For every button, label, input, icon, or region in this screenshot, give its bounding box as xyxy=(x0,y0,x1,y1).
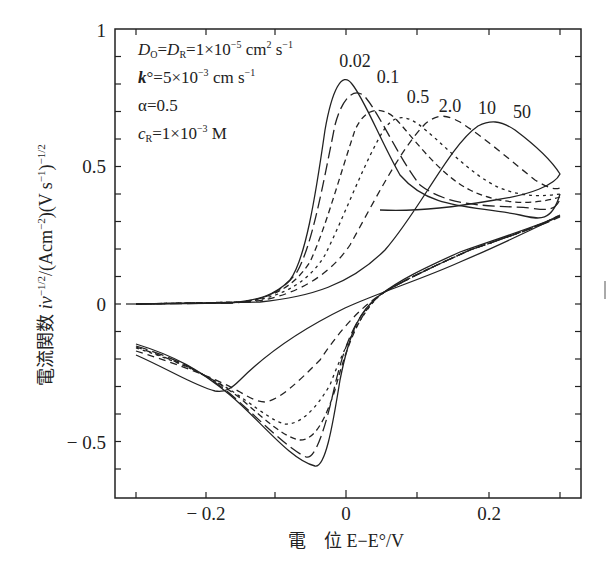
cyclic-voltammogram-chart: 1 0.5 0 − 0.5 − 0.2 0 0.2 電 位 E−E°/V 電流関… xyxy=(0,0,606,579)
x-tick-0.2: 0.2 xyxy=(477,503,501,524)
y-tick-0: 0 xyxy=(97,294,107,315)
curve-10 xyxy=(136,116,560,402)
curve-0.5 xyxy=(136,110,560,440)
curves xyxy=(136,80,560,467)
x-tick-neg-0.2: − 0.2 xyxy=(186,503,225,524)
label-0.5: 0.5 xyxy=(407,87,430,107)
plot-frame xyxy=(115,29,581,498)
parameter-list: DO=DR=1×10−5 cm2 s−1 k°=5×10−3 cm s−1 α=… xyxy=(137,39,293,144)
label-10: 10 xyxy=(478,98,496,118)
x-tick-0: 0 xyxy=(341,503,351,524)
label-0.02: 0.02 xyxy=(339,51,371,71)
param-rate-constant: k°=5×10−3 cm s−1 xyxy=(138,67,255,87)
x-axis-ticks xyxy=(136,29,560,498)
y-tick-0.5: 0.5 xyxy=(82,156,106,177)
curve-50 xyxy=(136,122,560,392)
curve-2.0 xyxy=(136,118,560,424)
label-50: 50 xyxy=(513,102,531,122)
param-diffusion: DO=DR=1×10−5 cm2 s−1 xyxy=(137,39,293,60)
y-axis-ticks xyxy=(115,57,581,470)
curve-0.1 xyxy=(136,93,560,457)
y-tick-1: 1 xyxy=(97,20,107,41)
curve-0.02 xyxy=(136,80,560,467)
label-0.1: 0.1 xyxy=(377,67,400,87)
param-concentration: cR=1×10−3 M xyxy=(138,123,227,144)
param-alpha: α=0.5 xyxy=(138,96,178,115)
y-axis-title: 電流関数 iv−1/2/(Acm−2)(V s−1)−1/2 xyxy=(35,144,57,386)
x-axis-title: 電 位 E−E°/V xyxy=(288,531,404,551)
y-tick-neg-0.5: − 0.5 xyxy=(67,432,106,453)
label-2.0: 2.0 xyxy=(439,96,462,116)
